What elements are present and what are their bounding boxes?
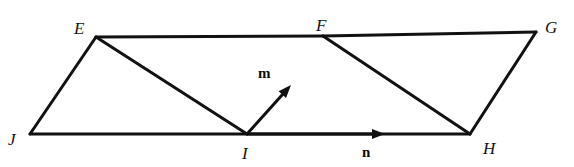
- vector-label-m: m: [258, 66, 271, 81]
- edge-FG: [323, 32, 536, 36]
- vertex-label-J: J: [8, 131, 16, 148]
- vertex-label-E: E: [74, 20, 84, 37]
- vertex-label-H: H: [483, 140, 495, 157]
- edge-EI: [96, 37, 247, 134]
- vector-label-n: n: [362, 145, 370, 160]
- edge-FH: [323, 36, 470, 134]
- vector-line-m: [247, 92, 284, 134]
- vector-arrowhead-n: [372, 129, 385, 139]
- edge-JE: [30, 37, 96, 134]
- edge-HG: [470, 32, 536, 134]
- vertex-label-I: I: [242, 145, 248, 162]
- vertex-label-G: G: [545, 19, 557, 36]
- vertex-label-F: F: [316, 17, 326, 34]
- edge-EF: [96, 36, 323, 37]
- geometry-figure: E F G J I H m n: [0, 0, 574, 167]
